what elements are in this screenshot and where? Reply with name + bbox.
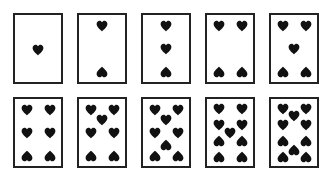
- heart-icon: [85, 127, 97, 139]
- heart-icon: [236, 151, 248, 163]
- playing-card-7-of-hearts: [77, 97, 127, 168]
- heart-icon: [300, 20, 312, 32]
- heart-icon: [108, 104, 120, 116]
- heart-icon: [213, 151, 225, 163]
- heart-icon: [236, 135, 248, 147]
- heart-icon: [236, 66, 248, 78]
- heart-icon: [32, 44, 44, 56]
- heart-icon: [108, 127, 120, 139]
- heart-icon: [21, 150, 33, 162]
- heart-icon: [44, 150, 56, 162]
- playing-card-5-of-hearts: [269, 13, 319, 84]
- heart-icon: [160, 139, 172, 151]
- heart-icon: [108, 150, 120, 162]
- heart-icon: [288, 110, 300, 122]
- heart-icon: [288, 144, 300, 156]
- heart-icon: [213, 66, 225, 78]
- heart-icon: [236, 103, 248, 115]
- playing-card-6-of-hearts: [13, 97, 63, 168]
- heart-icon: [300, 103, 312, 115]
- playing-card-2-of-hearts: [77, 13, 127, 84]
- heart-icon: [172, 150, 184, 162]
- heart-icon: [21, 104, 33, 116]
- heart-icon: [44, 127, 56, 139]
- heart-icon: [236, 119, 248, 131]
- heart-icon: [300, 119, 312, 131]
- heart-icon: [160, 66, 172, 78]
- heart-icon: [224, 127, 236, 139]
- playing-card-1-of-hearts: [13, 13, 63, 84]
- heart-icon: [236, 20, 248, 32]
- heart-icon: [277, 20, 289, 32]
- heart-icon: [96, 20, 108, 32]
- heart-icon: [300, 151, 312, 163]
- playing-card-4-of-hearts: [205, 13, 255, 84]
- heart-icon: [96, 114, 108, 126]
- heart-icon: [160, 43, 172, 55]
- heart-icon: [21, 127, 33, 139]
- heart-icon: [213, 135, 225, 147]
- playing-card-8-of-hearts: [141, 97, 191, 168]
- heart-icon: [149, 150, 161, 162]
- heart-icon: [172, 127, 184, 139]
- heart-icon: [213, 20, 225, 32]
- heart-icon: [149, 127, 161, 139]
- playing-card-10-of-hearts: [269, 97, 319, 168]
- heart-icon: [213, 103, 225, 115]
- heart-icon: [44, 104, 56, 116]
- heart-icon: [277, 151, 289, 163]
- heart-icon: [160, 20, 172, 32]
- heart-icon: [96, 66, 108, 78]
- heart-icon: [85, 150, 97, 162]
- playing-card-9-of-hearts: [205, 97, 255, 168]
- heart-icon: [300, 135, 312, 147]
- heart-icon: [300, 66, 312, 78]
- playing-card-3-of-hearts: [141, 13, 191, 84]
- heart-icon: [277, 119, 289, 131]
- heart-icon: [288, 43, 300, 55]
- heart-icon: [160, 114, 172, 126]
- heart-icon: [277, 66, 289, 78]
- heart-icon: [172, 104, 184, 116]
